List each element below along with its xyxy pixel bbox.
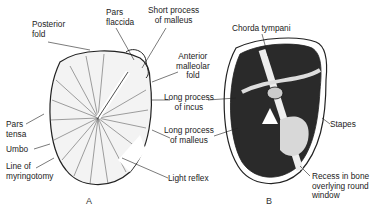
label-chorda-tympani: Chorda tympani: [232, 24, 291, 34]
label-long-process-incus: Long process of incus: [164, 93, 214, 112]
label-posterior-fold: Posterior fold: [32, 20, 65, 39]
label-light-reflex: Light reflex: [168, 174, 209, 184]
label-pars-flaccida: Pars flaccida: [106, 8, 134, 27]
label-stapes: Stapes: [330, 120, 356, 130]
label-pars-tensa: Pars tensa: [6, 120, 26, 139]
panel-label-b: B: [266, 196, 272, 206]
middle-ear-drawing: [224, 38, 327, 183]
label-anterior-malleolar-fold: Anterior malleolar fold: [176, 52, 210, 81]
label-short-process-malleus: Short process of malleus: [148, 6, 199, 25]
label-line-of-myringotomy: Line of myringotomy: [6, 162, 54, 181]
panel-label-a: A: [86, 196, 92, 206]
label-long-process-malleus: Long process of malleus: [164, 126, 214, 145]
label-recess-round-window: Recess in bone overlying round window: [312, 172, 369, 201]
label-umbo: Umbo: [6, 145, 28, 155]
